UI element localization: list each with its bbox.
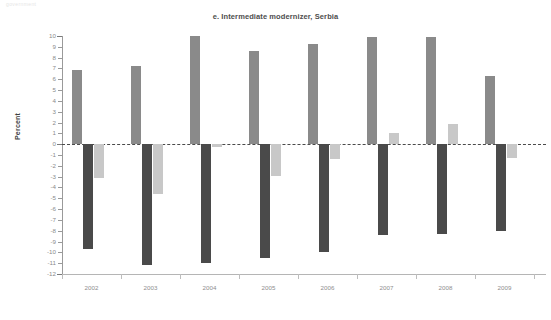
y-tick-label: 2 [53,119,56,125]
chart-figure: government e. Intermediate modernizer, S… [0,0,551,320]
x-tick [239,274,240,279]
y-tick-label: -6 [50,206,56,212]
y-axis-label: Percent [14,113,21,140]
x-tick [534,274,535,279]
y-tick [58,90,62,91]
x-tick-label: 2007 [380,284,394,291]
bar [94,144,104,178]
bar [131,66,141,144]
y-tick [58,177,62,178]
bar [249,51,259,144]
y-tick-label: -9 [50,238,56,244]
y-tick-label: -10 [47,249,56,255]
x-tick [121,274,122,279]
x-tick-label: 2009 [498,284,512,291]
bar [72,70,82,145]
x-tick-label: 2008 [439,284,453,291]
y-tick [58,166,62,167]
bar [378,144,388,235]
x-tick-label: 2006 [321,284,335,291]
y-tick [58,47,62,48]
bar [389,133,399,144]
y-tick-label: 0 [53,141,56,147]
y-tick-label: 10 [49,33,56,39]
bar [507,144,517,158]
y-tick [58,123,62,124]
y-axis-line [62,36,63,274]
y-tick [58,112,62,113]
bar [330,144,340,159]
x-tick [62,274,63,279]
y-tick [58,231,62,232]
y-tick-label: 7 [53,65,56,71]
y-tick-label: 5 [53,87,56,93]
bar [212,144,222,147]
plot-area: 109876543210-1-2-3-4-5-6-7-8-9-10-11-12 … [62,36,534,274]
bar [271,144,281,175]
y-tick-label: -1 [50,152,56,158]
y-tick-label: -3 [50,174,56,180]
bar [496,144,506,231]
y-tick [58,252,62,253]
y-tick [58,220,62,221]
x-tick-label: 2003 [144,284,158,291]
y-tick [58,209,62,210]
y-tick-label: -7 [50,217,56,223]
x-tick [475,274,476,279]
x-tick [416,274,417,279]
y-tick-label: 9 [53,44,56,50]
y-tick [58,242,62,243]
y-tick [58,198,62,199]
x-tick [357,274,358,279]
y-tick-label: -11 [48,260,56,266]
bar [201,144,211,263]
x-tick-label: 2002 [85,284,99,291]
zero-reference-line [62,144,546,145]
y-tick-label: -5 [50,195,56,201]
bar [190,36,200,144]
x-tick-label: 2004 [203,284,217,291]
bar [485,76,495,144]
x-tick-label: 2005 [262,284,276,291]
bar [142,144,152,265]
y-tick-label: -8 [50,228,56,234]
bar [367,37,377,144]
y-tick [58,263,62,264]
y-tick-label: -2 [50,163,56,169]
y-tick-label: 3 [53,109,56,115]
y-tick-label: -12 [47,271,56,277]
bar [448,124,458,145]
bar [308,44,318,145]
bar [426,37,436,144]
y-tick [58,133,62,134]
y-tick-label: 1 [53,130,56,136]
bar [319,144,329,252]
chart-title: e. Intermediate modernizer, Serbia [0,12,551,21]
faint-page-header: government [6,1,36,7]
y-tick [58,79,62,80]
y-tick [57,36,62,37]
y-tick [58,101,62,102]
y-tick-label: 8 [53,55,56,61]
bar [260,144,270,258]
y-tick [58,68,62,69]
bar [83,144,93,249]
bar [153,144,163,194]
x-tick [298,274,299,279]
x-axis-line [62,274,546,275]
y-tick-label: -4 [50,184,56,190]
y-tick-label: 4 [53,98,56,104]
bar [437,144,447,234]
y-tick-label: 6 [53,76,56,82]
y-tick [58,187,62,188]
x-tick [180,274,181,279]
y-tick [58,155,62,156]
y-tick [58,58,62,59]
